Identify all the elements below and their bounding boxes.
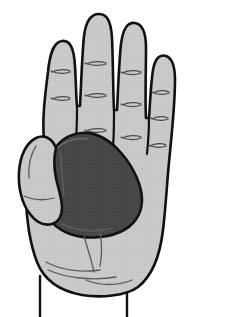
- hand-illustration: [0, 0, 246, 317]
- middle-ring-separator: [113, 110, 114, 146]
- illustration-canvas: Hand gesture illustration: [0, 0, 246, 317]
